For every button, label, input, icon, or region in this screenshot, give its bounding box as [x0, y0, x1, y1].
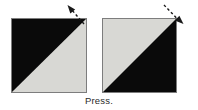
arrow-down-right	[158, 0, 192, 30]
arrow-up-left	[60, 0, 92, 30]
arrow-down-right-shaft	[164, 5, 177, 19]
figure-canvas: Press.	[0, 0, 198, 110]
arrow-up-left-shaft	[72, 10, 85, 25]
figure-caption: Press.	[0, 95, 198, 107]
arrow-down-right-graphic	[158, 0, 192, 30]
arrow-up-left-graphic	[60, 0, 92, 30]
